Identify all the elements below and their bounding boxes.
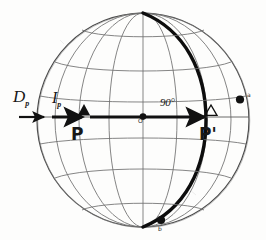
great-circle-meridian (143, 13, 206, 227)
center-marker-label: O (138, 118, 143, 124)
sphere-diagram-svg (0, 0, 266, 240)
right-marker-label: a (247, 92, 251, 98)
figure-canvas: Dp Ip P P' 90° O a b (0, 0, 266, 240)
right-rim-dot-marker (236, 95, 244, 103)
bottom-pole-dot-marker (157, 216, 165, 224)
pole-p-label: P (71, 126, 83, 143)
pole-p-prime-label: P' (199, 126, 217, 143)
inclination-label: Ip (52, 90, 61, 109)
angle-90-label: 90° (160, 97, 175, 108)
declination-label: Dp (13, 88, 29, 108)
bottom-marker-label: b (158, 226, 162, 232)
